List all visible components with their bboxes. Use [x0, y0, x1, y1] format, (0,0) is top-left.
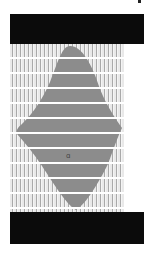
striped-field: ɑ — [10, 44, 124, 212]
bottom-black-bar — [10, 212, 144, 244]
horizontal-rules — [10, 44, 124, 212]
corner-mark — [138, 0, 141, 3]
top-black-bar — [10, 14, 144, 44]
center-mark: ɑ — [66, 152, 70, 160]
